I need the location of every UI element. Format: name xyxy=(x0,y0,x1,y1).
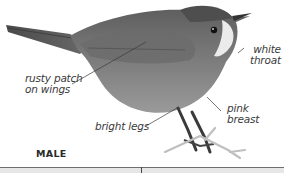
bottom-band xyxy=(0,168,284,173)
label-rusty-patch: rusty patch on wings xyxy=(25,73,83,95)
label-pink-breast: pink breast xyxy=(227,103,259,125)
branch xyxy=(165,128,245,158)
divider-tick xyxy=(141,167,142,173)
eye-icon xyxy=(211,27,217,33)
label-bright-legs: bright legs xyxy=(95,121,149,132)
label-white-throat: white throat xyxy=(250,44,281,66)
figure: rusty patch on wings white throat pink b… xyxy=(0,0,284,173)
beak xyxy=(232,13,252,21)
caption-male: MALE xyxy=(36,148,67,159)
